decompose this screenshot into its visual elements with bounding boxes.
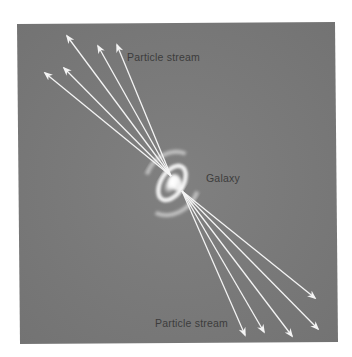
bottom-stream-label: Particle stream [155,317,228,329]
galaxy-label: Galaxy [206,172,240,184]
galaxy-particle-stream-diagram: Particle stream Galaxy Particle stream [0,0,352,357]
top-stream-label: Particle stream [127,51,200,63]
